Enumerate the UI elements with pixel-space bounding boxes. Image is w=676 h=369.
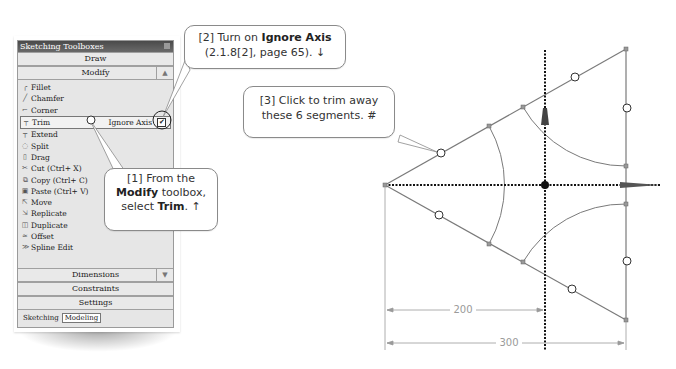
trim-segment-markers[interactable] bbox=[435, 73, 631, 293]
sketch-edge-top[interactable] bbox=[385, 49, 626, 185]
callout-step-1: [1] From the Modify toolbox, select Trim… bbox=[104, 168, 218, 231]
callout-1-select-text: select bbox=[121, 200, 157, 213]
callout-2-line1: [2] Turn on Ignore Axis bbox=[185, 30, 345, 45]
callout-1-bold-modify: Modify bbox=[116, 186, 158, 199]
callout-1-suffix: . ↑ bbox=[184, 200, 200, 213]
callout-3-line1: [3] Click to trim away bbox=[244, 93, 394, 108]
callout-2-bold-ignore-axis: Ignore Axis bbox=[262, 31, 332, 44]
arc-lower-right[interactable] bbox=[523, 204, 626, 262]
dimension-300-label[interactable]: 300 bbox=[499, 337, 518, 348]
callout-step-3: [3] Click to trim away these 6 segments.… bbox=[243, 86, 395, 138]
callout-1-line1: [1] From the bbox=[105, 172, 217, 186]
callout-step-2: [2] Turn on Ignore Axis (2.1.8[2], page … bbox=[184, 25, 346, 69]
callout-3-pointer bbox=[398, 135, 437, 152]
checkbox-highlight-circle bbox=[153, 111, 171, 129]
callout-1-toolbox-text: toolbox, bbox=[158, 186, 206, 199]
arc-upper-right[interactable] bbox=[523, 107, 626, 166]
callout-2-prefix: [2] Turn on bbox=[198, 31, 261, 44]
dimension-200-label[interactable]: 200 bbox=[453, 304, 472, 315]
callout-1-bold-trim: Trim bbox=[158, 200, 185, 213]
callout-3-line2: these 6 segments. # bbox=[244, 108, 394, 123]
origin-point bbox=[541, 181, 549, 189]
sketch-edge-bottom[interactable] bbox=[385, 185, 626, 320]
callout-2-line2: (2.1.8[2], page 65). ↓ bbox=[185, 45, 345, 60]
y-axis-arrow-icon bbox=[541, 108, 549, 125]
callout-1-line2: Modify toolbox, bbox=[105, 186, 217, 200]
callout-1-line3: select Trim. ↑ bbox=[105, 200, 217, 214]
x-axis-arrow-icon bbox=[620, 182, 660, 188]
callout-2-pointer bbox=[163, 58, 190, 117]
dimension-lines bbox=[385, 187, 626, 350]
trim-pointer-circle bbox=[87, 116, 95, 124]
